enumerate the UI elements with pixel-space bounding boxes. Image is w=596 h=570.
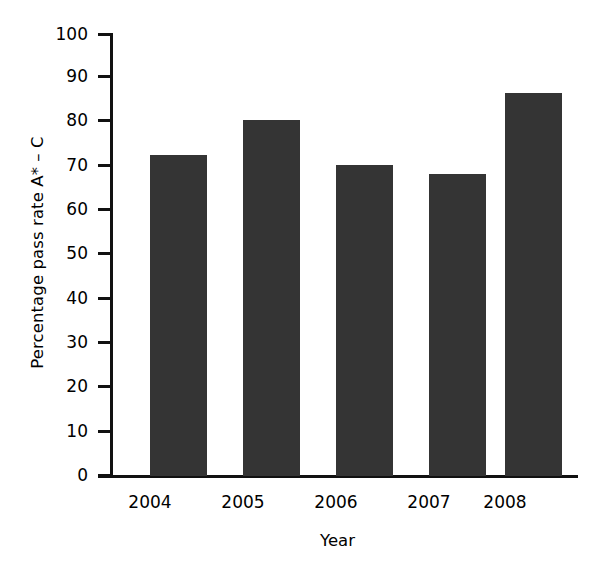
x-tick-label-2008: 2008: [460, 492, 550, 512]
y-tick-mark-100: [98, 33, 111, 36]
y-tick-label-60: 60: [32, 201, 88, 218]
bar-2008: [505, 93, 562, 476]
y-tick-label-30: 30: [32, 334, 88, 351]
x-tick-label-2004: 2004: [105, 492, 195, 512]
y-tick-mark-40: [98, 297, 111, 300]
bar-2007: [429, 174, 486, 476]
x-tick-label-2005: 2005: [198, 492, 288, 512]
y-tick-mark-10: [98, 430, 111, 433]
y-tick-mark-80: [98, 119, 111, 122]
y-tick-mark-50: [98, 252, 111, 255]
y-tick-label-50: 50: [32, 245, 88, 262]
bar-2006: [336, 165, 393, 476]
y-tick-mark-30: [98, 341, 111, 344]
plot-area: [113, 33, 562, 476]
y-tick-mark-90: [98, 75, 111, 78]
y-tick-label-20: 20: [32, 378, 88, 395]
bar-2004: [150, 155, 207, 476]
y-tick-label-40: 40: [32, 290, 88, 307]
bar-chart-figure: Percentage pass rate A* – C 0 10 20 30 4…: [0, 0, 596, 570]
y-tick-mark-20: [98, 385, 111, 388]
x-tick-label-2006: 2006: [291, 492, 381, 512]
y-tick-label-80: 80: [32, 112, 88, 129]
y-tick-label-90: 90: [32, 68, 88, 85]
y-tick-label-100: 100: [32, 26, 88, 43]
x-axis-label: Year: [113, 531, 562, 550]
y-tick-mark-70: [98, 164, 111, 167]
y-tick-mark-0: [98, 474, 111, 477]
y-tick-label-0: 0: [32, 467, 88, 484]
y-tick-mark-60: [98, 208, 111, 211]
bar-2005: [243, 120, 300, 476]
y-tick-label-70: 70: [32, 157, 88, 174]
y-tick-label-10: 10: [32, 423, 88, 440]
